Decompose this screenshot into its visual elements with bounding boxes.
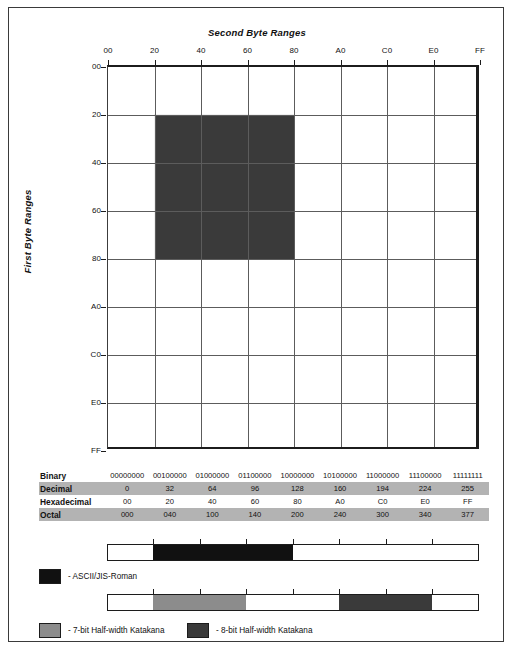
table-row-header: Decimal [39,482,106,495]
table-cell: 60 [234,495,277,508]
x-axis-label: 20 [140,46,170,55]
table-cell: 200 [276,508,319,521]
table-row: Binary0000000000100000010000000110000010… [39,469,489,482]
table-cell: 10000000 [276,469,319,482]
x-axis-label: A0 [326,46,356,55]
y-axis-tick [101,211,106,212]
grid-hline [108,163,476,164]
y-axis-tick [101,67,106,68]
range-bar-tick [153,589,154,595]
range-bar-tick [339,589,340,595]
table-cell: 160 [319,482,362,495]
y-axis-label: 60 [75,206,101,215]
table-cell: 00100000 [149,469,192,482]
y-axis-tick [101,451,106,452]
grid-vline [434,67,435,447]
legend-label-katakana-8bit: - 8-bit Half-width Katakana [216,626,312,635]
katakana-7bit-swatch-icon [39,623,61,638]
grid-hline [108,211,476,212]
y-axis-tick [101,403,106,404]
table-row-header: Hexadecimal [39,495,106,508]
grid-vline [201,67,202,447]
range-bar-segment [339,595,432,610]
table-cell: 255 [446,482,489,495]
grid-hline [108,307,476,308]
grid-vline [155,67,156,447]
table-cell: 64 [191,482,234,495]
y-axis-label: 20 [75,110,101,119]
range-bar-tick [293,539,294,545]
x-axis-tick [480,60,481,65]
table-row: Decimal0326496128160194224255 [39,482,489,495]
legend-label-katakana-7bit: - 7-bit Half-width Katakana [68,626,164,635]
range-bar-tick [200,589,201,595]
table-cell: A0 [319,495,362,508]
table-cell: 01100000 [234,469,277,482]
grid-hline [108,355,476,356]
table-cell: 11111111 [446,469,489,482]
byte-table-body: Binary0000000000100000010000000110000010… [39,469,489,521]
katakana-8bit-swatch-icon [187,623,209,638]
table-cell: 340 [404,508,447,521]
y-axis-label: E0 [75,398,101,407]
y-axis-label: 00 [75,62,101,71]
table-cell: 11000000 [361,469,404,482]
byte-value-table: Binary0000000000100000010000000110000010… [39,469,489,521]
two-byte-katakana-region [155,115,295,259]
y-axis-title: First Byte Ranges [22,152,33,312]
table-cell: 300 [361,508,404,521]
x-axis-label: E0 [419,46,449,55]
range-bar-tick [339,539,340,545]
table-cell: 100 [191,508,234,521]
grid-vline [341,67,342,447]
range-bar-segment [153,545,293,560]
y-axis-tick [101,163,106,164]
x-axis-tick [248,60,249,65]
table-cell: 128 [276,482,319,495]
table-cell: C0 [361,495,404,508]
range-bar-tick [386,539,387,545]
table-cell: 00 [106,495,149,508]
y-axis-tick [101,259,106,260]
x-axis-tick [108,60,109,65]
range-bar-tick [432,539,433,545]
range-bar-tick [246,589,247,595]
table-cell: 10100000 [319,469,362,482]
table-cell: 0 [106,482,149,495]
table-row-header: Binary [39,469,106,482]
table-row: Hexadecimal0020406080A0C0E0FF [39,495,489,508]
x-axis-tick [387,60,388,65]
x-axis-label: 40 [186,46,216,55]
table-cell: 80 [276,495,319,508]
y-axis-label: FF [75,446,101,455]
table-cell: 40 [191,495,234,508]
table-row: Octal000040100140200240300340377 [39,508,489,521]
grid-hline [108,115,476,116]
table-cell: 000 [106,508,149,521]
x-axis-tick [155,60,156,65]
y-axis-tick [101,355,106,356]
table-cell: 377 [446,508,489,521]
y-axis-label: C0 [75,350,101,359]
y-axis-tick [101,115,106,116]
x-axis-label: 00 [93,46,123,55]
table-cell: 040 [149,508,192,521]
range-bar-tick [293,589,294,595]
figure-frame: Second Byte Ranges First Byte Ranges 002… [8,7,504,642]
table-cell: 140 [234,508,277,521]
chart-title: Second Byte Ranges [9,27,505,38]
grid-hline [108,403,476,404]
byte-range-plot-area: 0020406080A0C0E0FF0020406080A0C0E0FF [107,65,479,449]
table-cell: 32 [149,482,192,495]
range-bar-tick [432,589,433,595]
table-cell: 11100000 [404,469,447,482]
x-axis-tick [341,60,342,65]
range-bar-tick [200,539,201,545]
range-bar-tick [246,539,247,545]
y-axis-label: 40 [75,158,101,167]
y-axis-label: A0 [75,302,101,311]
legend-item-katakana-7bit: - 7-bit Half-width Katakana [39,623,164,638]
halfwidth-katakana-range-bar [107,594,479,611]
y-axis-label: 80 [75,254,101,263]
table-cell: 20 [149,495,192,508]
